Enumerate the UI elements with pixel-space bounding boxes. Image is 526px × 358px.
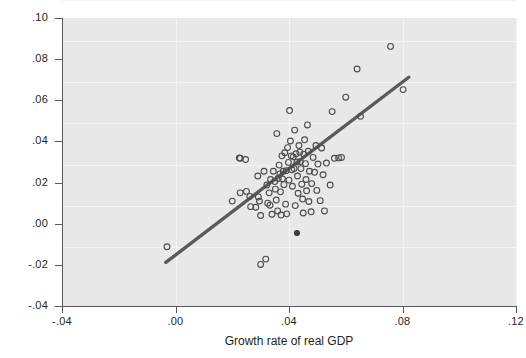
- gridline-vertical: [516, 18, 517, 306]
- y-tick-mark: [55, 59, 62, 60]
- x-tick-label: .00: [146, 316, 206, 327]
- x-axis-title: Growth rate of real GDP: [62, 334, 516, 348]
- x-tick-mark: [62, 307, 63, 313]
- y-tick-mark: [55, 183, 62, 184]
- y-tick-label: .02: [0, 177, 48, 188]
- y-tick-mark: [55, 224, 62, 225]
- gridline-vertical: [289, 18, 290, 306]
- y-tick-label: .00: [0, 218, 48, 229]
- y-tick-mark: [55, 306, 62, 307]
- x-tick-label: .12: [486, 316, 526, 327]
- x-tick-mark: [289, 307, 290, 313]
- y-tick-label: .06: [0, 94, 48, 105]
- gridline-vertical: [403, 18, 404, 306]
- gridlines: [0, 0, 526, 358]
- gridline-vertical: [176, 18, 177, 306]
- x-tick-label: -.04: [32, 316, 92, 327]
- x-tick-mark: [403, 307, 404, 313]
- y-tick-mark: [55, 141, 62, 142]
- y-tick-mark: [55, 18, 62, 19]
- y-tick-label: -.02: [0, 259, 48, 270]
- y-tick-mark: [55, 100, 62, 101]
- y-tick-label: .04: [0, 135, 48, 146]
- gridline-horizontal: [62, 0, 516, 1]
- x-tick-mark: [516, 307, 517, 313]
- y-axis-spine: [62, 18, 63, 307]
- scatter-plot-figure: -.04-.02.00.02.04.06.08.10 -.04.00.04.08…: [0, 0, 526, 358]
- y-tick-label: -.04: [0, 300, 48, 311]
- x-tick-label: .08: [373, 316, 433, 327]
- x-tick-label: .04: [259, 316, 319, 327]
- y-tick-label: .10: [0, 12, 48, 23]
- y-tick-label: .08: [0, 53, 48, 64]
- y-tick-mark: [55, 265, 62, 266]
- x-tick-mark: [176, 307, 177, 313]
